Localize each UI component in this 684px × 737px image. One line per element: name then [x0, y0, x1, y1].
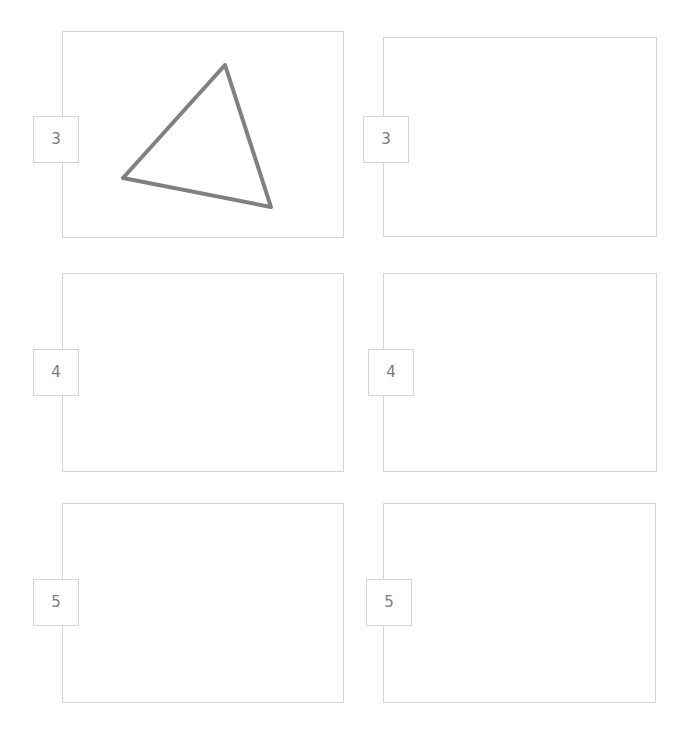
panel-label-text: 4 [386, 365, 396, 380]
panel-r2c1[interactable] [62, 273, 344, 472]
panel-r2c2[interactable] [383, 273, 657, 472]
panel-r1c1[interactable] [62, 31, 344, 238]
panel-label-badge[interactable]: 4 [368, 349, 414, 396]
panel-frame [383, 503, 656, 703]
panel-label-badge[interactable]: 5 [33, 579, 79, 626]
panel-r3c1[interactable] [62, 503, 344, 703]
panel-r1c2[interactable] [383, 37, 657, 237]
panel-frame [62, 31, 344, 238]
panel-label-text: 4 [51, 365, 61, 380]
panel-grid: 334455 [0, 0, 684, 737]
panel-label-text: 3 [381, 132, 391, 147]
panel-label-badge[interactable]: 4 [33, 349, 79, 396]
panel-frame [383, 273, 657, 472]
panel-frame [62, 503, 344, 703]
panel-frame [62, 273, 344, 472]
panel-r3c2[interactable] [383, 503, 656, 703]
panel-label-badge[interactable]: 5 [366, 579, 412, 626]
panel-label-text: 5 [51, 595, 61, 610]
panel-frame [383, 37, 657, 237]
panel-label-badge[interactable]: 3 [363, 116, 409, 163]
panel-label-text: 5 [384, 595, 394, 610]
panel-label-text: 3 [51, 132, 61, 147]
panel-label-badge[interactable]: 3 [33, 116, 79, 163]
